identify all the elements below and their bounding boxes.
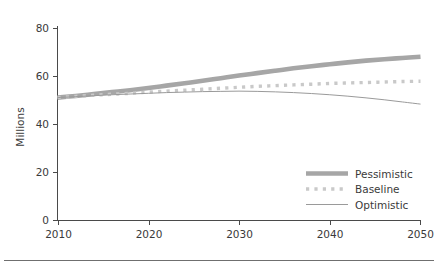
chart-figure: 0 20 40 60 80 2010 2020 2030 2040 2050 M…	[0, 0, 438, 272]
x-tick-label-2040: 2040	[317, 228, 344, 240]
x-tick-label-2020: 2020	[136, 228, 163, 240]
y-tick-label-0: 0	[42, 214, 49, 226]
y-tick-label-20: 20	[36, 166, 49, 178]
legend-label-baseline: Baseline	[355, 183, 400, 195]
y-axis-title: Millions	[14, 107, 26, 146]
x-tick-label-2030: 2030	[226, 228, 253, 240]
x-tick-label-2010: 2010	[45, 228, 72, 240]
x-tick-label-2050: 2050	[407, 228, 434, 240]
y-tick-label-60: 60	[36, 70, 49, 82]
y-tick-label-40: 40	[36, 118, 49, 130]
line-chart: 0 20 40 60 80 2010 2020 2030 2040 2050 M…	[0, 0, 438, 272]
y-tick-label-80: 80	[36, 22, 49, 34]
legend-label-optimistic: Optimistic	[355, 199, 409, 211]
legend-label-pessimistic: Pessimistic	[355, 168, 413, 180]
